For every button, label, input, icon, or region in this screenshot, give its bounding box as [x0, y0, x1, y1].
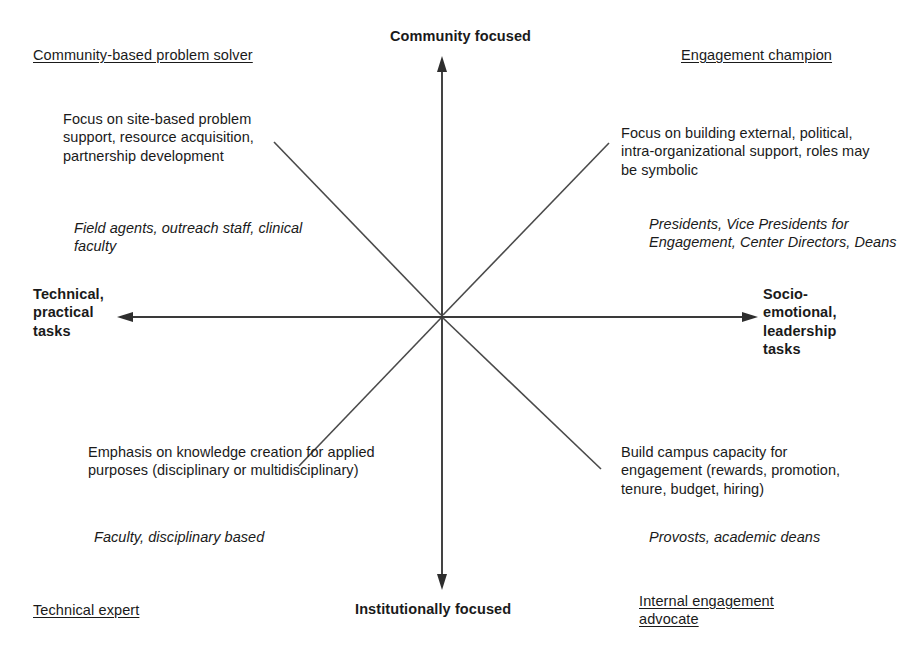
diagonal-to-top-right — [443, 143, 609, 315]
axis-label-technical-practical-tasks: Technical, practical tasks — [33, 285, 138, 340]
quadrant-description-engagement-champion: Focus on building external, political, i… — [621, 124, 886, 179]
axis-label-institutionally-focused: Institutionally focused — [355, 600, 575, 618]
quadrant-title-technical-expert: Technical expert — [33, 601, 193, 619]
quadrant-title-community-based-problem-solver: Community-based problem solver — [33, 46, 258, 64]
quadrant-roles-engagement-champion: Presidents, Vice Presidents for Engageme… — [649, 215, 899, 252]
quadrant-description-community-based-problem-solver: Focus on site-based problem support, res… — [63, 110, 295, 165]
quadrant-roles-community-based-problem-solver: Field agents, outreach staff, clinical f… — [74, 219, 334, 256]
axis-label-community-focused: Community focused — [390, 27, 570, 45]
quadrant-description-technical-expert: Emphasis on knowledge creation for appli… — [88, 443, 378, 480]
quadrant-roles-technical-expert: Faculty, disciplinary based — [94, 528, 374, 546]
diagram-canvas: Community focused Institutionally focuse… — [0, 0, 907, 648]
axis-arrowhead-right — [742, 312, 758, 322]
axis-label-socio-emotional-leadership-tasks: Socio- emotional, leadership tasks — [763, 285, 893, 359]
quadrant-title-engagement-champion: Engagement champion — [681, 46, 896, 64]
quadrant-roles-internal-engagement-advocate: Provosts, academic deans — [649, 528, 899, 546]
axis-arrowhead-down — [437, 574, 447, 590]
quadrant-title-internal-engagement-advocate: Internal engagement advocate — [639, 592, 824, 629]
diagonal-to-bottom-right — [443, 318, 601, 469]
quadrant-description-internal-engagement-advocate: Build campus capacity for engagement (re… — [621, 443, 851, 498]
axis-arrowhead-up — [437, 56, 447, 72]
